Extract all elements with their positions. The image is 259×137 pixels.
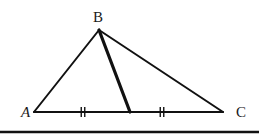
vertex-label-c: C	[236, 104, 246, 120]
side-ab	[34, 30, 99, 112]
triangle-edges	[34, 30, 223, 112]
vertex-label-a: A	[20, 104, 31, 120]
triangle-median-diagram: A B C	[0, 0, 259, 137]
median-bm	[99, 30, 130, 112]
vertex-label-b: B	[93, 9, 103, 25]
side-bc	[99, 30, 223, 112]
